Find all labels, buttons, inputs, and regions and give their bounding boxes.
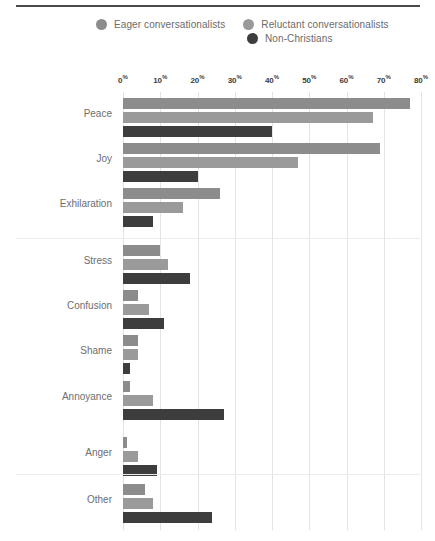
x-axis-tick-0: 0% xyxy=(118,74,128,85)
bar-stress-series-2 xyxy=(123,273,190,284)
bar-other-series-0 xyxy=(123,484,145,495)
bar-anger-series-0 xyxy=(123,437,127,448)
legend-item-eager: Eager conversationalists xyxy=(96,19,225,30)
bar-other-series-1 xyxy=(123,498,153,509)
bar-stress-series-1 xyxy=(123,259,168,270)
x-axis-tick-50: 50% xyxy=(302,74,316,85)
x-axis-tick-40: 40% xyxy=(265,74,279,85)
category-label-exhilaration: Exhilaration xyxy=(0,198,112,209)
category-label-confusion: Confusion xyxy=(0,300,112,311)
legend-label-non-christians: Non-Christians xyxy=(265,33,333,44)
legend-label-reluctant: Reluctant conversationalists xyxy=(261,19,388,30)
bar-exhilaration-series-0 xyxy=(123,188,220,199)
bar-stress-series-0 xyxy=(123,245,160,256)
x-axis-tick-70: 70% xyxy=(377,74,391,85)
chart-legend: Eager conversationalists Reluctant conve… xyxy=(0,19,435,44)
bar-anger-series-1 xyxy=(123,451,138,462)
category-label-peace: Peace xyxy=(0,108,112,119)
category-label-stress: Stress xyxy=(0,255,112,266)
category-label-annoyance: Annoyance xyxy=(0,391,112,402)
bar-peace-series-1 xyxy=(123,112,373,123)
bar-peace-series-2 xyxy=(123,126,272,137)
bar-joy-series-0 xyxy=(123,143,380,154)
x-axis-tick-labels: 0%10%20%30%40%50%60%70%80% xyxy=(123,74,421,88)
circle-icon xyxy=(247,33,258,44)
bar-confusion-series-0 xyxy=(123,290,138,301)
gridline-80 xyxy=(421,92,422,530)
bar-annoyance-series-1 xyxy=(123,395,153,406)
gridline-60 xyxy=(347,92,348,530)
group-separator-1 xyxy=(16,474,420,475)
bar-joy-series-2 xyxy=(123,171,198,182)
x-axis-tick-20: 20% xyxy=(190,74,204,85)
bar-shame-series-1 xyxy=(123,349,138,360)
bar-confusion-series-2 xyxy=(123,318,164,329)
category-label-anger: Anger xyxy=(0,447,112,458)
circle-icon xyxy=(243,19,254,30)
bar-exhilaration-series-2 xyxy=(123,216,153,227)
legend-label-eager: Eager conversationalists xyxy=(114,19,225,30)
category-label-shame: Shame xyxy=(0,345,112,356)
legend-item-non-christians: Non-Christians xyxy=(247,33,333,44)
bar-peace-series-0 xyxy=(123,98,410,109)
gridline-70 xyxy=(384,92,385,530)
group-separator-0 xyxy=(16,238,420,239)
bar-annoyance-series-0 xyxy=(123,381,130,392)
x-axis-tick-80: 80% xyxy=(414,74,428,85)
bar-joy-series-1 xyxy=(123,157,298,168)
bar-shame-series-2 xyxy=(123,363,130,374)
bar-shame-series-0 xyxy=(123,335,138,346)
bar-other-series-2 xyxy=(123,512,212,523)
gridline-50 xyxy=(309,92,310,530)
category-label-other: Other xyxy=(0,494,112,505)
bar-confusion-series-1 xyxy=(123,304,149,315)
circle-icon xyxy=(96,19,107,30)
x-axis-tick-30: 30% xyxy=(228,74,242,85)
chart-container: Eager conversationalists Reluctant conve… xyxy=(0,0,435,541)
x-axis-tick-60: 60% xyxy=(339,74,353,85)
legend-item-reluctant: Reluctant conversationalists xyxy=(243,19,388,30)
x-axis-tick-10: 10% xyxy=(153,74,167,85)
bar-exhilaration-series-1 xyxy=(123,202,183,213)
bar-annoyance-series-2 xyxy=(123,409,224,420)
category-label-joy: Joy xyxy=(0,153,112,164)
header-divider xyxy=(16,5,420,7)
